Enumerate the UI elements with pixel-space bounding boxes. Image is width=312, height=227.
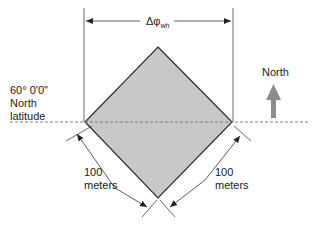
- left-side-value: 100: [84, 166, 102, 178]
- latitude-label-line2: North: [10, 97, 37, 109]
- north-label: North: [262, 66, 289, 78]
- width-label: Δφwh: [146, 15, 170, 29]
- right-side-value: 100: [215, 166, 233, 178]
- latitude-label-line1: 60° 0'0": [10, 84, 48, 96]
- left-side-unit: meters: [84, 179, 118, 191]
- north-arrow-icon: [266, 84, 281, 118]
- square-plot: [85, 47, 232, 198]
- right-side-unit: meters: [215, 179, 249, 191]
- latitude-label-line3: latitude: [10, 110, 45, 122]
- diagram-canvas: Δφwh 60° 0'0" North latitude North 100 m…: [0, 0, 312, 227]
